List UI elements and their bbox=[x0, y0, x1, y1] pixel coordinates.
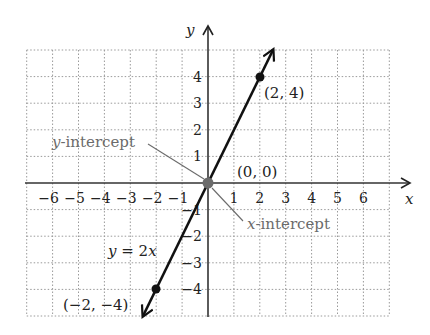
x-tick-label: 6 bbox=[359, 190, 368, 206]
origin-label: (0, 0) bbox=[237, 163, 277, 181]
graph-canvas: −6−5−4−3−2−1123456 4321−1−2−3−4 y x (2, … bbox=[0, 0, 430, 335]
coordinate-graph: −6−5−4−3−2−1123456 4321−1−2−3−4 y x (2, … bbox=[0, 0, 430, 335]
y-tick-label: −4 bbox=[181, 281, 202, 297]
origin-point bbox=[203, 178, 214, 189]
y-tick-label: 4 bbox=[193, 69, 202, 85]
y-tick-label: 1 bbox=[193, 148, 202, 164]
x-intercept-label: x-intercept bbox=[247, 215, 330, 233]
x-axis-label: x bbox=[405, 190, 414, 208]
y-tick-label: −3 bbox=[181, 255, 202, 271]
x-tick-label: 2 bbox=[255, 190, 264, 206]
point-neg2-neg4-label: (−2, −4) bbox=[63, 296, 128, 314]
x-tick-label: −4 bbox=[90, 190, 111, 206]
x-tick-label: −6 bbox=[38, 190, 59, 206]
x-tick-label: −2 bbox=[142, 190, 163, 206]
x-tick-label: −5 bbox=[64, 190, 85, 206]
y-axis-label: y bbox=[185, 21, 195, 39]
x-tick-label: 4 bbox=[307, 190, 316, 206]
x-tick-label: −3 bbox=[116, 190, 137, 206]
y-tick-label: 2 bbox=[193, 122, 202, 138]
y-tick-label: 3 bbox=[193, 95, 202, 111]
point-neg2-neg4 bbox=[152, 285, 161, 294]
point-2-4 bbox=[256, 73, 265, 82]
point-2-4-label: (2, 4) bbox=[264, 84, 304, 102]
x-tick-label: 1 bbox=[229, 190, 238, 206]
x-tick-label: 5 bbox=[333, 190, 342, 206]
x-tick-label: 3 bbox=[281, 190, 290, 206]
equation-label: y = 2x bbox=[107, 242, 157, 260]
y-intercept-label: y-intercept bbox=[51, 133, 135, 151]
